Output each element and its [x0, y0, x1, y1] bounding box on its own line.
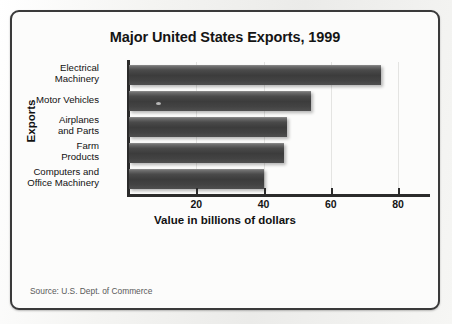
bar-airplanes-and-parts: [129, 117, 287, 137]
category-label: Computers andOffice Machinery: [10, 167, 99, 189]
bar-row: [129, 91, 430, 111]
category-label: FarmProducts: [10, 141, 99, 163]
chart-figure-frame: Major United States Exports, 1999 Export…: [10, 10, 440, 310]
category-label-line: Products: [10, 152, 99, 163]
category-label-line: Machinery: [10, 74, 99, 85]
bar-row: [129, 117, 430, 137]
x-axis-title: Value in billions of dollars: [12, 214, 438, 226]
x-tick-60: [331, 188, 333, 194]
category-label: Airplanesand Parts: [10, 115, 99, 137]
plot-area: [129, 62, 430, 195]
bar-row: [129, 65, 430, 85]
category-label-line: Motor Vehicles: [10, 95, 99, 106]
x-tick-label: 60: [316, 198, 346, 210]
x-tick-label: 20: [181, 198, 211, 210]
x-tick-20: [196, 188, 198, 194]
bar-farm-products: [129, 143, 284, 163]
x-tick-40: [264, 188, 266, 194]
chart-title: Major United States Exports, 1999: [12, 29, 438, 45]
x-tick-label: 40: [249, 198, 279, 210]
category-label: ElectricalMachinery: [10, 63, 99, 85]
bar-group: [129, 62, 430, 195]
category-label-line: and Parts: [10, 126, 99, 137]
category-label-line: Office Machinery: [10, 178, 99, 189]
x-tick-label: 80: [383, 198, 413, 210]
bar-computers-and-office-machinery: [129, 169, 264, 189]
bar-row: [129, 169, 430, 189]
bar-row: [129, 143, 430, 163]
source-note: Source: U.S. Dept. of Commerce: [30, 286, 152, 296]
category-label: Motor Vehicles: [10, 95, 99, 106]
bar-electrical-machinery: [129, 65, 381, 85]
scan-artifact-speck: [156, 102, 161, 105]
bar-motor-vehicles: [129, 91, 311, 111]
x-tick-80: [398, 188, 400, 194]
x-axis-line: [127, 194, 430, 197]
